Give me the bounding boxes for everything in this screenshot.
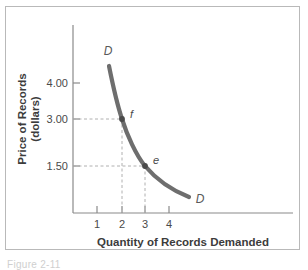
- x-tick-label-1: 1: [94, 218, 100, 230]
- x-tick-label-2: 2: [119, 218, 125, 230]
- x-tick-label-4: 4: [166, 218, 172, 230]
- x-axis-title: Quantity of Records Demanded: [97, 236, 269, 248]
- y-ticks-group: [73, 83, 80, 166]
- y-tick-label-300: 3.00: [47, 113, 68, 125]
- x-tick-label-3: 3: [142, 218, 148, 230]
- curve-labels-group: D D: [104, 44, 205, 206]
- figure-frame: 4.00 3.00 1.50 1 2 3 4: [5, 6, 300, 250]
- figure-root: 4.00 3.00 1.50 1 2 3 4: [0, 0, 308, 270]
- point-label-e: e: [153, 154, 159, 166]
- y-tick-labels-group: 4.00 3.00 1.50: [47, 77, 68, 172]
- y-tick-label-150: 1.50: [47, 160, 68, 172]
- y-axis-title-line2: (dollars): [29, 96, 41, 142]
- point-label-f: f: [130, 108, 134, 120]
- guide-lines-group: [73, 119, 147, 213]
- x-tick-labels-group: 1 2 3 4: [94, 218, 172, 230]
- curve-label-bottom: D: [196, 192, 205, 206]
- x-ticks-group: [97, 206, 169, 213]
- point-marker-e: [142, 163, 148, 169]
- demand-curve-group: [109, 66, 189, 197]
- point-marker-f: [119, 116, 125, 122]
- demand-curve-path: [109, 66, 189, 197]
- demand-curve-chart: 4.00 3.00 1.50 1 2 3 4: [6, 7, 299, 249]
- y-axis-title-line1: Price of Records: [16, 73, 28, 164]
- curve-label-top: D: [104, 44, 113, 58]
- figure-caption-partial: Figure 2-11: [7, 259, 187, 270]
- y-tick-label-400: 4.00: [47, 77, 68, 89]
